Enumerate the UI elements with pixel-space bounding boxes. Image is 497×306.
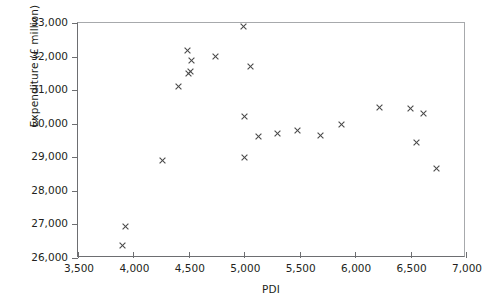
x-axis-tick-label: 7,000 — [452, 262, 482, 274]
x-axis-tick: 5,000 — [244, 252, 245, 258]
y-axis-tick: 28,000 — [72, 191, 78, 192]
x-axis-tick: 7,000 — [466, 252, 467, 258]
data-point-marker — [407, 105, 414, 112]
data-point-marker — [212, 53, 219, 60]
data-point-marker — [159, 157, 166, 164]
x-axis-tick: 3,500 — [78, 252, 79, 258]
y-axis-tick: 29,000 — [72, 157, 78, 158]
data-point-marker — [175, 83, 182, 90]
data-point-marker — [187, 68, 194, 75]
y-axis-tick-label: 29,000 — [31, 150, 68, 162]
data-point-marker — [240, 23, 247, 30]
x-axis-tick-label: 5,500 — [286, 262, 316, 274]
x-axis-title: PDI — [77, 283, 465, 295]
y-axis-tick-label: 32,000 — [31, 50, 68, 62]
y-axis-tick-label: 33,000 — [31, 16, 68, 28]
data-point-marker — [184, 47, 191, 54]
data-point-marker — [413, 139, 420, 146]
x-axis-tick-label: 5,000 — [230, 262, 260, 274]
data-point-marker — [274, 130, 281, 137]
x-axis-tick-label: 6,500 — [397, 262, 427, 274]
data-point-marker — [241, 113, 248, 120]
data-point-marker — [122, 223, 129, 230]
data-point-marker — [188, 57, 195, 64]
y-axis-tick-label: 30,000 — [31, 117, 68, 129]
plot-area: 26,00027,00028,00029,00030,00031,00032,0… — [77, 22, 465, 257]
scatter-chart-figure: Expenditure (£ million) 26,00027,00028,0… — [0, 0, 497, 306]
data-point-marker — [317, 132, 324, 139]
x-axis-tick-label: 4,500 — [175, 262, 205, 274]
data-point-marker — [241, 154, 248, 161]
y-axis-tick-label: 26,000 — [31, 251, 68, 263]
x-axis-tick: 5,500 — [300, 252, 301, 258]
x-axis-tick: 6,000 — [355, 252, 356, 258]
x-axis-tick-label: 6,000 — [341, 262, 371, 274]
y-axis-tick: 30,000 — [72, 124, 78, 125]
data-point-marker — [376, 104, 383, 111]
x-axis-tick-label: 3,500 — [64, 262, 94, 274]
x-axis-tick: 4,500 — [189, 252, 190, 258]
data-point-marker — [119, 242, 126, 249]
y-axis-tick: 26,000 — [72, 258, 78, 259]
data-point-marker — [420, 110, 427, 117]
x-axis-tick: 6,500 — [411, 252, 412, 258]
y-axis-tick: 27,000 — [72, 224, 78, 225]
x-axis-tick-label: 4,000 — [119, 262, 149, 274]
y-axis-tick: 32,000 — [72, 57, 78, 58]
data-point-marker — [338, 121, 345, 128]
y-axis-tick-label: 28,000 — [31, 184, 68, 196]
data-point-marker — [433, 165, 440, 172]
data-point-marker — [247, 63, 254, 70]
y-axis-tick-label: 31,000 — [31, 83, 68, 95]
y-axis-tick-label: 27,000 — [31, 217, 68, 229]
data-point-marker — [255, 133, 262, 140]
data-point-marker — [294, 127, 301, 134]
y-axis-tick: 33,000 — [72, 23, 78, 24]
x-axis-tick: 4,000 — [133, 252, 134, 258]
y-axis-tick: 31,000 — [72, 90, 78, 91]
